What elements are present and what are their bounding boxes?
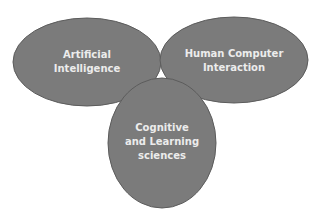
label-cognitive-learning-sciences-line2: and Learning	[125, 136, 199, 147]
label-human-computer-interaction-line2: Interaction	[203, 62, 265, 73]
label-cognitive-learning-sciences-line3: sciences	[138, 150, 186, 161]
label-artificial-intelligence-line2: Intelligence	[54, 63, 121, 74]
node-cognitive-learning-sciences: Cognitive and Learning sciences	[108, 78, 216, 208]
label-cognitive-learning-sciences-line1: Cognitive	[135, 122, 189, 133]
diagram-svg: Artificial Intelligence Human Computer I…	[0, 0, 320, 222]
venn-diagram: Artificial Intelligence Human Computer I…	[0, 0, 320, 222]
label-human-computer-interaction-line1: Human Computer	[185, 48, 284, 59]
label-artificial-intelligence-line1: Artificial	[63, 49, 111, 60]
